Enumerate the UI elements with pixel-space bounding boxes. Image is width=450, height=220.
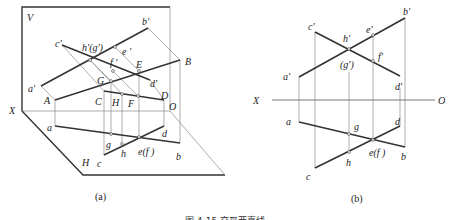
label-ef: e(f ) (138, 146, 155, 158)
label-e-prime-b: e' (366, 24, 373, 35)
point-h-prime-b (348, 48, 351, 51)
line-c-prime-d-prime-b (315, 32, 400, 76)
label-H: H (111, 97, 120, 108)
origin-label-a: O (169, 101, 176, 112)
label-b-prime-b: b' (403, 6, 411, 17)
label-e-prime: e ' (122, 46, 132, 57)
label-d-prime: d' (150, 78, 158, 89)
label-g-b: g (354, 121, 359, 132)
x-axis-label-a: X (8, 105, 16, 116)
label-c-prime-b: c' (308, 21, 315, 32)
label-h-prime-b: h' (343, 33, 351, 44)
point-hg-prime (89, 59, 92, 62)
label-f-prime-b: f' (378, 51, 384, 62)
point-ef-b (372, 139, 375, 142)
v-plane-label: V (27, 12, 35, 23)
label-g: g (106, 139, 111, 150)
label-B: B (185, 56, 191, 67)
label-b-prime: b' (142, 16, 150, 27)
point-h-b (348, 151, 351, 154)
label-f-prime: f ' (110, 57, 118, 68)
label-h: h (121, 148, 126, 159)
panel-a-label: (a) (95, 191, 106, 203)
point-E (138, 70, 141, 73)
point-f-prime (112, 70, 115, 73)
panel-b-label: (b) (351, 193, 363, 205)
label-E: E (135, 59, 142, 70)
label-b-b: b (401, 151, 406, 162)
point-h (121, 143, 124, 146)
label-C: C (95, 96, 102, 107)
label-D: D (160, 90, 169, 101)
label-h-b: h (346, 157, 351, 168)
label-ef-b: e(f ) (369, 147, 386, 159)
line-a-prime-b-prime (41, 28, 148, 86)
origin-label-b: O (438, 95, 445, 106)
label-g-prime-b: (g') (340, 59, 354, 71)
label-a-prime: a' (28, 83, 36, 94)
label-a-b: a (286, 116, 291, 127)
point-f-prime-b (372, 60, 375, 63)
h-plane-frame (22, 111, 225, 175)
label-c-prime: c' (55, 38, 62, 49)
line-cd (104, 126, 164, 155)
line-cd-b (315, 126, 400, 168)
point-e-prime (114, 46, 117, 49)
label-a-prime-b: a' (283, 71, 291, 82)
point-ef (138, 136, 141, 139)
label-d: d (162, 128, 168, 139)
label-a: a (47, 122, 52, 133)
point-g (110, 133, 113, 136)
projector (148, 28, 180, 60)
x-axis-label-b: X (252, 95, 260, 106)
label-c-b: c (306, 171, 311, 182)
label-G: G (97, 75, 104, 86)
crossing-lines-projection-figure: V H X O a' b' c' d' e ' f ' h'(g') A B C… (0, 0, 450, 220)
point-H (121, 93, 124, 96)
figure-caption: 图 4-15 交叉两直线 (185, 215, 265, 220)
panel-b-orthographic: X O a' b' c' d' e' f' h' (g') a b c d g … (252, 6, 445, 205)
point-G (110, 80, 113, 83)
panel-a-pictorial: V H X O a' b' c' d' e ' f ' h'(g') A B C… (8, 7, 225, 203)
label-F: F (127, 98, 135, 109)
label-A: A (43, 95, 51, 106)
label-b: b (176, 151, 181, 162)
h-plane-label: H (81, 157, 90, 168)
point-F (137, 95, 140, 98)
point-g-b (348, 133, 351, 136)
label-d-prime-b: d' (395, 81, 403, 92)
label-hg-prime: h'(g') (82, 42, 104, 54)
label-c: c (97, 158, 102, 169)
